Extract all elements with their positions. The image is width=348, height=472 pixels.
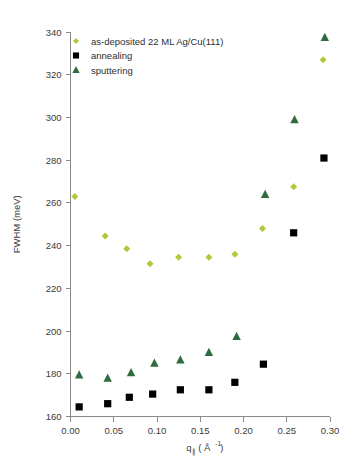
x-axis-tick-label: 0.15: [191, 425, 210, 436]
data-point-square: [290, 229, 297, 236]
y-axis-title: FWHM (meV): [11, 195, 22, 253]
x-axis-tick-label: 0.00: [61, 425, 80, 436]
x-axis-title: q: [186, 442, 191, 453]
data-point-square: [205, 386, 212, 393]
legend-label-1: annealing: [91, 50, 132, 61]
data-point-diamond: [71, 193, 78, 200]
data-point-diamond: [123, 245, 130, 252]
legend-entry-2: [72, 66, 79, 73]
data-point-square: [320, 154, 327, 161]
data-point-triangle: [261, 190, 269, 198]
figure-bottom-margin: [0, 462, 348, 472]
legend-label-0: as-deposited 22 ML Ag/Cu(111): [91, 36, 223, 47]
figure-container: 1601802002202402602803003203400.000.050.…: [0, 0, 348, 472]
x-axis-tick-label: 0.05: [105, 425, 124, 436]
x-axis-tick-label: 0.30: [321, 425, 340, 436]
data-point-triangle: [127, 368, 135, 376]
x-axis-title-unit: ( Å: [198, 442, 211, 453]
y-axis-tick-label: 340: [46, 27, 62, 38]
data-point-triangle: [103, 373, 111, 381]
data-point-triangle: [232, 332, 240, 340]
y-axis-tick-label: 320: [46, 69, 62, 80]
y-axis-tick-label: 240: [46, 240, 62, 251]
scatter-plot: 1601802002202402602803003203400.000.050.…: [0, 0, 348, 472]
y-axis-tick-label: 220: [46, 283, 62, 294]
y-axis-tick-label: 260: [46, 197, 62, 208]
data-point-square: [260, 361, 267, 368]
series-1: [76, 154, 328, 410]
x-axis-title-paren: ): [220, 442, 223, 453]
data-point-diamond: [102, 232, 109, 239]
x-axis-tick-label: 0.25: [278, 425, 297, 436]
series-2: [75, 33, 329, 382]
y-axis-tick-label: 300: [46, 112, 62, 123]
legend-label-2: sputtering: [91, 65, 133, 76]
data-point-triangle: [290, 115, 298, 123]
data-point-square: [76, 403, 83, 410]
data-point-triangle: [72, 66, 79, 73]
data-point-square: [231, 379, 238, 386]
data-point-diamond: [290, 183, 297, 190]
data-point-triangle: [176, 355, 184, 363]
x-axis-title-subscript: ∥: [192, 448, 196, 456]
data-point-square: [177, 386, 184, 393]
x-axis-tick-label: 0.20: [234, 425, 253, 436]
y-axis-tick-label: 160: [46, 411, 62, 422]
y-axis-tick-label: 280: [46, 155, 62, 166]
data-point-diamond: [259, 225, 266, 232]
data-point-triangle: [205, 348, 213, 356]
data-point-square: [104, 400, 111, 407]
y-axis-tick-label: 180: [46, 368, 62, 379]
data-point-diamond: [205, 254, 212, 261]
data-point-triangle: [150, 358, 158, 366]
data-point-square: [73, 52, 79, 58]
legend-entry-0: [73, 38, 79, 44]
series-0: [71, 56, 326, 267]
data-point-diamond: [147, 260, 154, 267]
data-point-diamond: [320, 56, 327, 63]
legend-entry-1: [73, 52, 79, 58]
data-point-diamond: [175, 254, 182, 261]
x-axis-tick-label: 0.10: [148, 425, 167, 436]
y-axis-tick-label: 200: [46, 326, 62, 337]
data-point-diamond: [231, 251, 238, 258]
data-point-diamond: [73, 38, 79, 44]
data-point-triangle: [321, 33, 329, 41]
data-point-square: [149, 390, 156, 397]
data-point-triangle: [75, 370, 83, 378]
data-point-square: [126, 394, 133, 401]
